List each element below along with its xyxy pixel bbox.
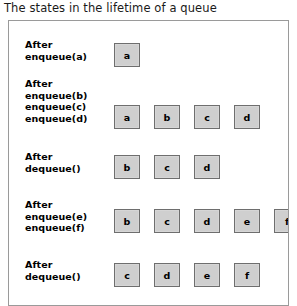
queue-box-group: cdef <box>114 263 260 287</box>
queue-element-box: c <box>154 155 180 179</box>
figure-caption: The states in the lifetime of a queue <box>4 1 217 15</box>
queue-element-box: c <box>114 263 140 287</box>
queue-box-group: bcdef <box>114 209 289 233</box>
queue-element-box: b <box>154 105 180 129</box>
queue-element-box: c <box>194 105 220 129</box>
queue-box-group: a <box>114 43 140 67</box>
queue-element-box: b <box>114 155 140 179</box>
queue-element-box: a <box>114 43 140 67</box>
queue-state-label-line: After <box>25 259 81 271</box>
queue-state-label-line: enqueue(a) <box>25 51 87 63</box>
queue-state-label-line: enqueue(f) <box>25 222 87 234</box>
queue-state-label-line: After <box>25 78 87 90</box>
queue-element-box: e <box>194 263 220 287</box>
queue-element-box: e <box>234 209 260 233</box>
queue-state-label-line: enqueue(d) <box>25 113 87 125</box>
queue-element-box: d <box>194 155 220 179</box>
figure-panel-content: Afterenqueue(a)aAfterenqueue(b)enqueue(c… <box>9 21 288 305</box>
queue-state-label-line: After <box>25 39 87 51</box>
queue-element-box: d <box>234 105 260 129</box>
queue-element-box: b <box>114 209 140 233</box>
queue-state-label-line: dequeue() <box>25 271 81 283</box>
queue-element-box: a <box>114 105 140 129</box>
queue-box-group: abcd <box>114 105 260 129</box>
queue-state-label-line: enqueue(e) <box>25 211 87 223</box>
queue-state-label: Afterenqueue(e)enqueue(f) <box>25 199 87 234</box>
queue-box-group: bcd <box>114 155 220 179</box>
queue-element-box: f <box>234 263 260 287</box>
queue-state-label: Afterenqueue(b)enqueue(c)enqueue(d) <box>25 78 87 124</box>
queue-state-label-line: After <box>25 199 87 211</box>
queue-state-label: Afterenqueue(a) <box>25 39 87 62</box>
queue-state-label-line: After <box>25 151 81 163</box>
figure-panel: Afterenqueue(a)aAfterenqueue(b)enqueue(c… <box>8 20 289 306</box>
queue-element-box: f <box>274 209 289 233</box>
queue-state-label: Afterdequeue() <box>25 259 81 282</box>
queue-state-label-line: dequeue() <box>25 163 81 175</box>
queue-element-box: d <box>194 209 220 233</box>
queue-state-label: Afterdequeue() <box>25 151 81 174</box>
queue-element-box: c <box>154 209 180 233</box>
queue-state-label-line: enqueue(b) <box>25 90 87 102</box>
queue-state-label-line: enqueue(c) <box>25 101 87 113</box>
queue-element-box: d <box>154 263 180 287</box>
